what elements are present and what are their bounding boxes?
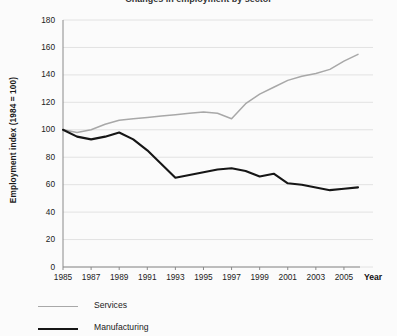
y-tick-label: 60 [21,179,55,189]
y-tick-label: 40 [21,207,55,217]
axis-lines [63,20,360,267]
y-tick-label: 140 [21,69,55,79]
y-tick-label: 180 [21,15,55,25]
gridlines [63,20,373,267]
x-axis-title: Year [364,272,382,282]
y-tick-label: 120 [21,97,55,107]
legend-label: Manufacturing [94,322,148,332]
y-tick-label: 160 [21,42,55,52]
series-line-services [63,54,358,132]
legend-swatch [38,328,78,330]
x-tick-label: 2005 [324,272,364,282]
line-chart: Changes in employment by sector Employme… [0,0,397,336]
y-tick-label: 100 [21,124,55,134]
y-tick-label: 0 [21,262,55,272]
legend-swatch [38,306,78,307]
plot-area [0,0,397,336]
y-tick-label: 20 [21,234,55,244]
legend-label: Services [94,300,127,310]
series-line-manufacturing [63,130,358,190]
y-tick-label: 80 [21,152,55,162]
